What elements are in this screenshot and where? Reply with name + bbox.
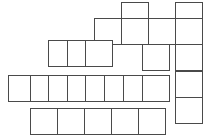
crossword-cell[interactable] xyxy=(175,97,203,124)
crossword-cell[interactable] xyxy=(175,44,203,71)
crossword-cell[interactable] xyxy=(85,40,113,67)
crossword-cell[interactable] xyxy=(30,108,58,135)
crossword-cell[interactable] xyxy=(142,75,170,102)
crossword-cell[interactable] xyxy=(142,44,170,71)
crossword-cell[interactable] xyxy=(84,108,112,135)
crossword-cell[interactable] xyxy=(175,18,203,45)
crossword-cell[interactable] xyxy=(111,108,139,135)
crossword-cell[interactable] xyxy=(148,18,176,45)
crossword-cell[interactable] xyxy=(121,18,149,45)
crossword-cell[interactable] xyxy=(138,108,166,135)
crossword-cell[interactable] xyxy=(57,108,85,135)
crossword-grid xyxy=(0,0,203,139)
crossword-cell[interactable] xyxy=(175,71,203,98)
